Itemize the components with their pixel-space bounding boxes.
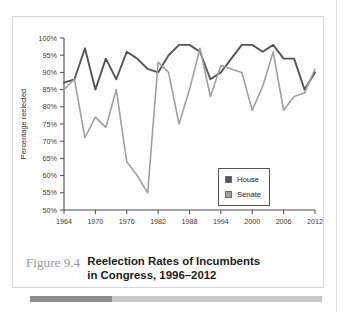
y-tick-label: 85% [43, 85, 58, 94]
y-tick-label: 95% [43, 51, 58, 60]
y-tick-label: 50% [43, 206, 58, 215]
figure-page: 50%55%60%65%70%75%80%85%90%95%100% 19641… [0, 0, 344, 312]
legend-item-senate[interactable]: Senate [225, 188, 261, 201]
legend-label-house: House [237, 176, 259, 184]
x-tick-label: 2012 [307, 217, 323, 226]
x-tick-label: 1976 [119, 217, 135, 226]
y-axis-tick-marks [60, 38, 64, 210]
y-tick-label: 70% [43, 137, 58, 146]
y-tick-label: 60% [43, 171, 58, 180]
rule-bar-dark-segment [30, 296, 112, 302]
caption-line-1: Reelection Rates of Incumbents [87, 255, 260, 267]
y-tick-label: 65% [43, 154, 58, 163]
y-tick-label: 100% [39, 34, 58, 43]
figure-number: Figure 9.4 [26, 255, 80, 271]
decorative-rule-bar [30, 296, 322, 302]
figure-caption: Figure 9.4 Reelection Rates of Incumbent… [26, 255, 326, 282]
x-tick-label: 1994 [213, 217, 229, 226]
legend-swatch-senate-icon [225, 191, 232, 198]
y-axis-tick-labels: 50%55%60%65%70%75%80%85%90%95%100% [39, 34, 58, 215]
x-tick-label: 1982 [150, 217, 166, 226]
line-chart: 50%55%60%65%70%75%80%85%90%95%100% 19641… [12, 16, 324, 246]
rule-bar-light-segment [112, 296, 322, 302]
legend-item-house[interactable]: House [225, 173, 261, 186]
caption-line-2: in Congress, 1996–2012 [87, 269, 216, 281]
legend-label-senate: Senate [237, 191, 261, 199]
legend-swatch-house-icon [225, 176, 232, 183]
y-tick-label: 90% [43, 68, 58, 77]
y-tick-label: 80% [43, 102, 58, 111]
x-tick-label: 2006 [276, 217, 292, 226]
series-line-house [64, 45, 315, 90]
x-tick-label: 1964 [56, 217, 72, 226]
x-tick-label: 1988 [182, 217, 198, 226]
y-axis-title: Percentage reelected [19, 89, 28, 159]
x-axis-tick-marks [64, 210, 315, 214]
y-tick-label: 55% [43, 188, 58, 197]
data-series-group [64, 45, 315, 193]
chart-container: 50%55%60%65%70%75%80%85%90%95%100% 19641… [12, 16, 324, 246]
x-axis-tick-labels: 196419701976198219881994200020062012 [56, 217, 323, 226]
x-tick-label: 1970 [87, 217, 103, 226]
y-tick-label: 75% [43, 120, 58, 129]
figure-caption-text: Reelection Rates of Incumbents in Congre… [87, 255, 260, 282]
chart-legend: House Senate [218, 168, 270, 206]
x-tick-label: 2000 [244, 217, 260, 226]
page-right-edge [336, 0, 337, 312]
